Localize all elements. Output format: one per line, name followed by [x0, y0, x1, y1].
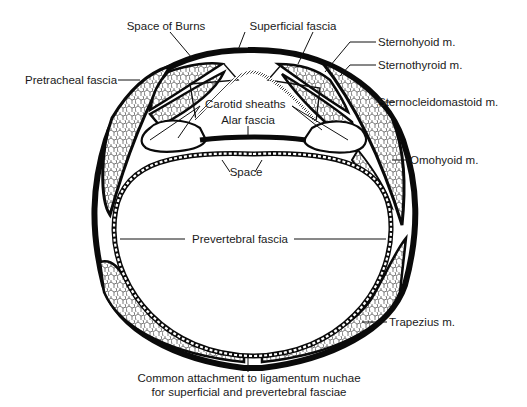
label-sternothyroid: Sternothyroid m. — [378, 59, 462, 71]
label-pretracheal-fascia: Pretracheal fascia — [25, 74, 118, 86]
label-sternocleidomastoid: Sternocleidomastoid m. — [378, 96, 498, 108]
label-space-of-burns: Space of Burns — [127, 20, 206, 32]
label-common-attachment-line1: Common attachment to ligamentum nuchae — [137, 372, 360, 384]
label-prevertebral-fascia: Prevertebral fascia — [192, 233, 288, 245]
alar-fascia — [200, 137, 306, 140]
label-carotid-sheaths: Carotid sheaths — [205, 98, 286, 110]
label-alar-fascia: Alar fascia — [221, 114, 275, 126]
label-omohyoid: Omohyoid m. — [410, 154, 478, 166]
label-trapezius: Trapezius m. — [389, 316, 455, 328]
label-space: Space — [230, 166, 263, 178]
label-common-attachment-line2: for superficial and prevertebral fasciae — [152, 386, 347, 398]
label-superficial-fascia: Superficial fascia — [250, 20, 338, 32]
label-sternohyoid: Sternohyoid m. — [378, 36, 455, 48]
neck-fascia-diagram: Space of Burns Superficial fascia Sterno… — [0, 0, 527, 407]
